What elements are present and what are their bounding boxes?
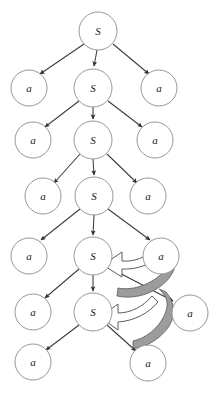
tree-node-a5r[interactable]: a bbox=[172, 295, 208, 331]
tree-node-s3[interactable]: S bbox=[75, 177, 113, 215]
node-label: a bbox=[40, 190, 46, 202]
node-label: a bbox=[158, 250, 164, 262]
node-label: S bbox=[90, 82, 96, 94]
tree-edge-s3-s4 bbox=[93, 215, 94, 235]
node-label: S bbox=[90, 250, 96, 262]
node-label: S bbox=[90, 306, 96, 318]
node-label: a bbox=[26, 250, 32, 262]
node-label: a bbox=[152, 134, 158, 146]
node-label: S bbox=[91, 190, 97, 202]
tree-node-a6l[interactable]: a bbox=[15, 344, 51, 380]
tree-edge-s0-a1r bbox=[113, 44, 149, 74]
tree-node-s1[interactable]: S bbox=[74, 69, 112, 107]
tree-node-a5l[interactable]: a bbox=[15, 294, 51, 330]
node-label: a bbox=[30, 356, 36, 368]
tree-edge-s2-a3r bbox=[107, 154, 137, 183]
tree-node-a6r[interactable]: a bbox=[130, 345, 166, 381]
tree-edge-s5-a6l bbox=[46, 325, 79, 350]
tree-node-a4r[interactable]: a bbox=[143, 238, 179, 274]
figure-canvas: S a S a a S a a bbox=[0, 0, 219, 396]
node-label: a bbox=[145, 190, 151, 202]
node-label: a bbox=[187, 307, 193, 319]
tree-node-a3l[interactable]: a bbox=[25, 178, 61, 214]
node-label: a bbox=[156, 82, 162, 94]
node-label: S bbox=[95, 25, 101, 37]
tree-node-s0[interactable]: S bbox=[79, 12, 117, 50]
tree-node-a2r[interactable]: a bbox=[137, 122, 173, 158]
node-label: a bbox=[30, 306, 36, 318]
tree-node-a3r[interactable]: a bbox=[130, 178, 166, 214]
tree-edge-s0-s1 bbox=[94, 50, 97, 66]
tree-node-s5[interactable]: S bbox=[74, 293, 112, 331]
node-label: a bbox=[26, 82, 32, 94]
tree-node-a4l[interactable]: a bbox=[11, 238, 47, 274]
tree-node-a2l[interactable]: a bbox=[15, 122, 51, 158]
node-label: S bbox=[90, 134, 96, 146]
node-label: a bbox=[145, 357, 151, 369]
tree-edge-s4-a5l bbox=[45, 269, 79, 298]
tree-node-s4[interactable]: S bbox=[74, 237, 112, 275]
tree-node-s2[interactable]: S bbox=[74, 121, 112, 159]
derivation-tree-figure: S a S a a S a a bbox=[0, 0, 219, 396]
node-label: a bbox=[30, 134, 36, 146]
tree-edge-s2-a3l bbox=[54, 154, 80, 183]
tree-edge-s1-a2l bbox=[45, 101, 79, 127]
tree-edge-s5-a6r bbox=[107, 325, 136, 351]
tree-node-a1r[interactable]: a bbox=[141, 70, 177, 106]
tree-edge-s0-a1l bbox=[40, 44, 84, 74]
tree-edge-s2-s3 bbox=[93, 159, 94, 175]
tree-node-a1l[interactable]: a bbox=[11, 70, 47, 106]
tree-edge-s1-a2r bbox=[108, 101, 142, 127]
